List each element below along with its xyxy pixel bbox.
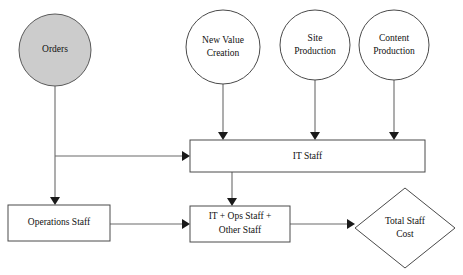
arrowhead [182, 151, 190, 161]
node-it-staff[interactable]: IT Staff [190, 140, 425, 172]
site-production-label-line1: Site [308, 33, 323, 43]
content-production-label-line1: Content [379, 33, 409, 43]
total-staff-cost-diamond[interactable] [355, 188, 455, 268]
edge-orders-to-it-staff [55, 151, 190, 161]
arrowhead [182, 219, 190, 229]
content-production-label-line2: Production [373, 46, 415, 56]
edge-orders-to-operations-staff [50, 86, 60, 205]
new-value-creation-label-line1: New Value [202, 35, 244, 45]
node-orders[interactable]: Orders [19, 14, 91, 86]
node-new-value-creation[interactable]: New Value Creation [186, 10, 260, 84]
it-ops-other-staff-label-line1: IT + Ops Staff + [209, 211, 272, 221]
node-site-production[interactable]: Site Production [280, 10, 350, 80]
diagram-canvas: Orders New Value Creation Site Productio… [0, 0, 463, 275]
total-staff-cost-label-line2: Cost [396, 229, 414, 239]
content-production-circle[interactable] [359, 10, 429, 80]
site-production-label-line2: Production [294, 46, 336, 56]
edge-it-staff-to-it-ops-other-staff [227, 172, 237, 206]
site-production-circle[interactable] [280, 10, 350, 80]
node-total-staff-cost[interactable]: Total Staff Cost [355, 188, 455, 268]
it-ops-other-staff-label-line2: Other Staff [219, 225, 262, 235]
it-staff-label: IT Staff [293, 151, 323, 161]
arrowhead [310, 132, 320, 140]
edge-site-production-to-it-staff [310, 80, 320, 140]
new-value-creation-circle[interactable] [186, 10, 260, 84]
arrowhead [218, 132, 228, 140]
arrowhead [227, 198, 237, 206]
total-staff-cost-label-line1: Total Staff [385, 216, 426, 226]
orders-label: Orders [42, 44, 68, 54]
edge-content-production-to-it-staff [389, 80, 399, 140]
node-operations-staff[interactable]: Operations Staff [8, 205, 110, 241]
new-value-creation-label-line2: Creation [207, 48, 240, 58]
arrowhead [347, 219, 355, 229]
node-content-production[interactable]: Content Production [359, 10, 429, 80]
edge-it-ops-other-staff-to-total-staff-cost [290, 219, 355, 229]
operations-staff-label: Operations Staff [28, 217, 91, 227]
node-it-ops-other-staff[interactable]: IT + Ops Staff + Other Staff [190, 206, 290, 242]
arrowhead [50, 197, 60, 205]
arrowhead [389, 132, 399, 140]
flowchart-diagram: Orders New Value Creation Site Productio… [0, 0, 463, 275]
edge-new-value-creation-to-it-staff [218, 84, 228, 140]
edge-operations-staff-to-it-ops-other-staff [110, 219, 190, 229]
